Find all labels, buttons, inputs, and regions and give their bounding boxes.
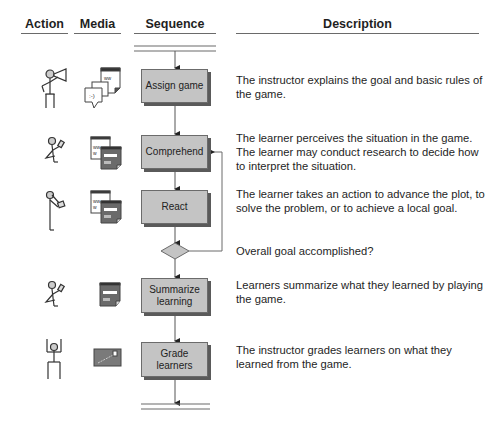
step-assign-game: Assign game [141, 69, 208, 103]
step-summarize-learning: Summarize learning [141, 278, 208, 313]
svg-text::-): :-) [89, 93, 95, 99]
web-page-and-form-icon: ww w [90, 136, 124, 172]
decision-question: Overall goal accomplished? [236, 244, 486, 258]
step-label: React [161, 201, 187, 213]
web-page-and-form-icon: ww w [90, 190, 124, 226]
learner-acting-icon [42, 190, 72, 234]
instructor-megaphone-icon [36, 66, 76, 112]
learner-writing-icon [42, 280, 72, 314]
step-label: Grade learners [151, 348, 199, 372]
step-label: Assign game [146, 80, 204, 92]
step-react: React [141, 190, 208, 224]
step-grade-learners: Grade learners [141, 342, 208, 377]
grade-certificate-icon [93, 348, 123, 368]
step-label: Comprehend [146, 146, 204, 158]
chat-and-web-page-icon: ww :-) [82, 66, 124, 110]
svg-text:w: w [93, 204, 97, 210]
learner-reading-icon [42, 136, 72, 170]
form-icon [99, 282, 123, 308]
description-grade: The instructor grades learners on what t… [236, 343, 486, 371]
svg-text:w: w [93, 150, 97, 156]
step-label: Summarize learning [149, 284, 201, 308]
instructor-arms-raised-icon [44, 338, 64, 384]
description-summarize: Learners summarize what they learned by … [236, 278, 486, 306]
step-comprehend: Comprehend [141, 135, 208, 169]
description-react: The learner takes an action to advance t… [236, 187, 486, 215]
svg-text:ww: ww [104, 75, 112, 81]
description-comprehend: The learner perceives the situation in t… [236, 131, 486, 173]
decision-diamond [161, 243, 189, 259]
description-assign-game: The instructor explains the goal and bas… [236, 73, 486, 101]
